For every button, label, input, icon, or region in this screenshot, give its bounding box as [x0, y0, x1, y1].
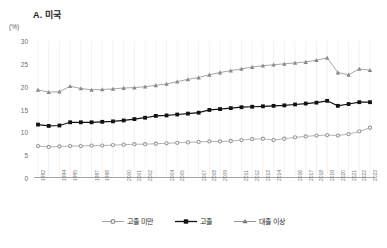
data-point	[58, 145, 61, 148]
data-point	[36, 123, 40, 127]
x-axis-tick: 2002	[147, 170, 153, 181]
data-point	[282, 103, 286, 107]
data-series-group	[36, 56, 372, 149]
data-point	[165, 114, 169, 118]
x-axis-tick: 2022	[361, 170, 367, 181]
legend-item-1[interactable]: 고졸 미만	[102, 216, 153, 226]
y-axis-tick: 25	[8, 60, 28, 67]
chart-container: A. 미국 (%) 051015202530 19921994199519971…	[0, 0, 387, 248]
x-axis-tick: 1997	[94, 170, 100, 181]
x-axis-tick: 2001	[136, 170, 142, 181]
data-point	[197, 111, 201, 115]
data-point	[79, 120, 83, 124]
y-axis-tick: 30	[8, 38, 28, 45]
data-point	[79, 144, 82, 147]
data-point	[101, 144, 104, 147]
data-point	[293, 136, 296, 139]
legend-label: 대졸 이상	[259, 216, 285, 226]
x-axis-tick: 2004	[169, 170, 175, 181]
series-line	[38, 58, 370, 92]
data-point	[347, 133, 350, 136]
data-point	[251, 138, 254, 141]
data-point	[240, 139, 243, 142]
x-axis-tick: 2011	[243, 170, 249, 181]
x-axis-tick: 1995	[72, 170, 78, 181]
data-point	[100, 120, 104, 124]
y-axis-tick: 5	[8, 152, 28, 159]
gridlines	[38, 41, 370, 178]
series-1	[36, 126, 371, 148]
x-axis-tick: 2008	[211, 170, 217, 181]
data-point	[133, 143, 136, 146]
data-point	[36, 88, 40, 92]
data-point	[36, 144, 39, 147]
y-axis-tick: 15	[8, 106, 28, 113]
data-point	[336, 104, 340, 108]
x-axis-tick: 2007	[201, 170, 207, 181]
data-point	[304, 102, 308, 106]
x-axis-tick: 2021	[351, 170, 357, 181]
x-axis-tick: 2009	[222, 170, 228, 181]
x-axis-tick: 1998	[104, 170, 110, 181]
data-point	[315, 134, 318, 137]
data-point	[144, 143, 147, 146]
data-point	[165, 142, 168, 145]
series-line	[38, 128, 370, 147]
data-point	[186, 112, 190, 116]
legend-marker-icon	[234, 217, 256, 226]
series-line	[38, 101, 370, 126]
legend-marker-icon	[102, 217, 124, 226]
x-axis-tick: 2014	[276, 170, 282, 181]
data-point	[272, 139, 275, 142]
legend-label: 고졸 미만	[127, 216, 153, 226]
series-2	[36, 99, 372, 128]
x-axis-tick: 2017	[308, 170, 314, 181]
data-point	[69, 144, 72, 147]
data-point	[347, 102, 351, 106]
data-point	[218, 107, 222, 111]
data-point	[272, 104, 276, 108]
data-point	[304, 135, 307, 138]
data-point	[368, 126, 371, 129]
legend-label: 고졸	[200, 216, 212, 226]
x-axis-tick: 2019	[329, 170, 335, 181]
chart-legend: 고졸 미만고졸대졸 이상	[0, 216, 387, 226]
data-point	[261, 104, 265, 108]
x-axis-tick: 2013	[265, 170, 271, 181]
data-point	[261, 137, 264, 140]
data-point	[197, 140, 200, 143]
data-point	[47, 124, 51, 128]
x-axis-tick: 2020	[340, 170, 346, 181]
data-point	[122, 143, 125, 146]
data-point	[229, 139, 232, 142]
data-point	[218, 140, 221, 143]
data-point	[325, 99, 329, 103]
data-point	[68, 84, 72, 88]
legend-item-2[interactable]: 고졸	[175, 216, 212, 226]
page-title: A. 미국	[33, 8, 62, 21]
x-axis-tick: 2012	[254, 170, 260, 181]
x-axis-tick: 1992	[40, 170, 46, 181]
data-point	[111, 144, 114, 147]
data-point	[326, 133, 329, 136]
data-point	[154, 114, 158, 118]
data-point	[122, 119, 126, 123]
x-axis-tick: 2018	[318, 170, 324, 181]
legend-item-3[interactable]: 대졸 이상	[234, 216, 285, 226]
x-axis-tick: 2005	[179, 170, 185, 181]
data-point	[336, 134, 339, 137]
data-point	[357, 100, 361, 104]
data-point	[368, 100, 372, 104]
data-point	[283, 137, 286, 140]
data-point	[90, 144, 93, 147]
data-point	[90, 120, 94, 124]
line-chart-svg	[34, 41, 374, 178]
data-point	[132, 117, 136, 121]
y-axis-tick: 10	[8, 129, 28, 136]
data-point	[186, 141, 189, 144]
x-axis-tick: 2023	[372, 170, 378, 181]
data-point	[47, 145, 50, 148]
data-point	[68, 120, 72, 124]
y-axis-unit-label: (%)	[9, 23, 19, 30]
x-axis-tick: 2016	[297, 170, 303, 181]
